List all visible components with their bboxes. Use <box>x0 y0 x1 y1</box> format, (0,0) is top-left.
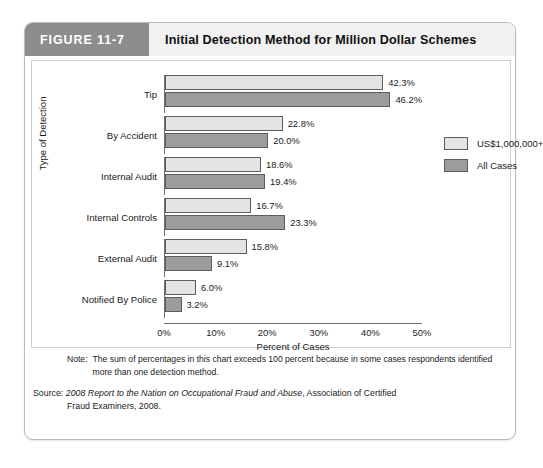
source-rest: , Association of Certified <box>302 388 396 398</box>
bar-value-label: 18.6% <box>266 159 293 170</box>
figure-number-tab: FIGURE 11-7 <box>25 23 149 56</box>
category-label: External Audit <box>52 253 164 264</box>
source-prefix: Source: <box>33 388 66 398</box>
category-label: Internal Audit <box>52 171 164 182</box>
x-tick-label: 0% <box>157 327 171 338</box>
plot-area: Tip42.3%46.2%By Accident22.8%20.0%Intern… <box>52 69 504 341</box>
bar-group-row: Internal Controls16.7%23.3% <box>52 198 504 236</box>
bar <box>165 116 283 131</box>
note-label: Note: <box>67 353 88 378</box>
legend-item: US$1,000,000+ <box>444 137 543 150</box>
bar <box>165 256 212 271</box>
figure-footnotes: Note: The sum of percentages in this cha… <box>31 353 511 413</box>
source-line-1: Source: 2008 Report to the Nation on Occ… <box>33 387 511 400</box>
x-tick-label: 10% <box>206 327 225 338</box>
note-block: Note: The sum of percentages in this cha… <box>31 353 511 378</box>
bars-zone: 42.3%46.2% <box>164 75 422 113</box>
bar-line: 3.2% <box>165 297 422 312</box>
legend-label: All Cases <box>477 160 517 171</box>
x-tick-label: 30% <box>309 327 328 338</box>
bars-zone: 16.7%23.3% <box>164 198 422 236</box>
bar-value-label: 23.3% <box>290 217 317 228</box>
bar-value-label: 46.2% <box>395 94 422 105</box>
legend-swatch <box>444 159 468 172</box>
bars-zone: 18.6%19.4% <box>164 157 422 195</box>
source-block: Source: 2008 Report to the Nation on Occ… <box>31 387 511 413</box>
chart-panel: Type of Detection Tip42.3%46.2%By Accide… <box>31 60 511 348</box>
bar-value-label: 20.0% <box>273 135 300 146</box>
bar <box>165 239 247 254</box>
bar <box>165 75 383 90</box>
bar-value-label: 3.2% <box>187 299 208 310</box>
legend-label: US$1,000,000+ <box>477 138 543 149</box>
legend-swatch <box>444 137 468 150</box>
bar <box>165 280 196 295</box>
bar-line: 18.6% <box>165 157 422 172</box>
figure-number-label: FIGURE 11-7 <box>40 33 125 47</box>
bars-zone: 15.8%9.1% <box>164 239 422 277</box>
x-axis-line <box>164 323 422 324</box>
x-tick-label: 50% <box>413 327 432 338</box>
bar <box>165 133 268 148</box>
bar-group-row: By Accident22.8%20.0% <box>52 116 504 154</box>
bar-line: 23.3% <box>165 215 422 230</box>
bar-value-label: 19.4% <box>270 176 297 187</box>
bar-value-label: 22.8% <box>288 118 315 129</box>
bar <box>165 215 285 230</box>
bar <box>165 157 261 172</box>
bar-value-label: 15.8% <box>252 241 279 252</box>
bar-line: 46.2% <box>165 92 422 107</box>
chart-legend: US$1,000,000+All Cases <box>444 137 543 181</box>
bar-line: 9.1% <box>165 256 422 271</box>
x-tick-label: 20% <box>258 327 277 338</box>
bar-line: 42.3% <box>165 75 422 90</box>
category-label: Internal Controls <box>52 212 164 223</box>
bar-rows: Tip42.3%46.2%By Accident22.8%20.0%Intern… <box>52 75 504 321</box>
bar-value-label: 16.7% <box>256 200 283 211</box>
bar-group-row: Internal Audit18.6%19.4% <box>52 157 504 195</box>
bar-line: 6.0% <box>165 280 422 295</box>
figure-title-band: Initial Detection Method for Million Dol… <box>149 23 515 56</box>
x-axis-ticks: 0%10%20%30%40%50% <box>164 327 422 341</box>
bar-value-label: 6.0% <box>201 282 222 293</box>
bar-group-row: External Audit15.8%9.1% <box>52 239 504 277</box>
category-label: Tip <box>52 89 164 100</box>
bar-line: 16.7% <box>165 198 422 213</box>
bar-value-label: 9.1% <box>217 258 238 269</box>
bar <box>165 198 251 213</box>
bars-zone: 6.0%3.2% <box>164 280 422 318</box>
bar-line: 22.8% <box>165 116 422 131</box>
note-text: The sum of percentages in this chart exc… <box>93 353 497 378</box>
bar <box>165 297 182 312</box>
bar-line: 20.0% <box>165 133 422 148</box>
category-label: Notified By Police <box>52 294 164 305</box>
source-line-2: Fraud Examiners, 2008. <box>33 400 511 413</box>
bar-line: 19.4% <box>165 174 422 189</box>
figure-title: Initial Detection Method for Million Dol… <box>165 33 476 47</box>
bars-zone: 22.8%20.0% <box>164 116 422 154</box>
bar-value-label: 42.3% <box>388 77 415 88</box>
figure-header: FIGURE 11-7 Initial Detection Method for… <box>25 23 515 56</box>
figure-container: FIGURE 11-7 Initial Detection Method for… <box>24 22 516 440</box>
category-label: By Accident <box>52 130 164 141</box>
bar-group-row: Tip42.3%46.2% <box>52 75 504 113</box>
bar-group-row: Notified By Police6.0%3.2% <box>52 280 504 318</box>
bar <box>165 174 265 189</box>
x-axis-title: Percent of Cases <box>164 341 422 352</box>
legend-item: All Cases <box>444 159 543 172</box>
y-axis-title: Type of Detection <box>37 155 48 171</box>
bar <box>165 92 390 107</box>
source-title: 2008 Report to the Nation on Occupationa… <box>66 388 302 398</box>
bar-line: 15.8% <box>165 239 422 254</box>
x-tick-label: 40% <box>361 327 380 338</box>
